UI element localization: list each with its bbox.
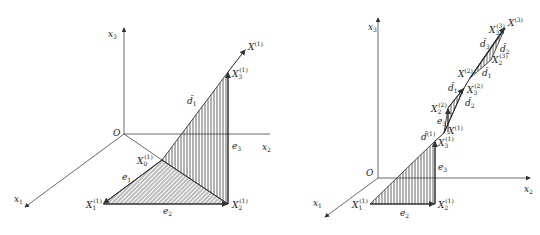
x1-label: x1 xyxy=(14,194,23,205)
origin-label: O xyxy=(113,128,121,138)
point-x-3: X(3) xyxy=(507,16,523,28)
origin-label: O xyxy=(366,168,374,178)
edge-d2-step3-label: d̄2 xyxy=(500,43,510,55)
point-x-1: X(1) xyxy=(447,124,463,136)
left-figure: x3 x2 x1 O X0(1) X1(1) X2(1) X3(1) X(1) … xyxy=(14,28,271,217)
edge-d-1-label: d̄(1) xyxy=(421,130,435,142)
edge-e1-label: e1 xyxy=(122,172,131,183)
x3-label: x3 xyxy=(368,22,377,33)
x1-axis xyxy=(25,134,124,207)
x3-label: x3 xyxy=(108,29,117,40)
point-x3-1: X3(1) xyxy=(437,135,454,149)
edge-e3-label: e3 xyxy=(438,162,447,173)
point-x3-2: X3(2) xyxy=(466,82,483,96)
edge-d1-step2-label: d̄1 xyxy=(448,82,458,94)
point-x2: X2(1) xyxy=(231,197,248,211)
x1-label: x1 xyxy=(313,198,322,209)
point-x2-1: X2(1) xyxy=(437,197,454,211)
point-x1: X1(1) xyxy=(85,197,102,211)
edge-e2-label: e2 xyxy=(163,206,172,217)
point-x3: X3(1) xyxy=(231,66,248,80)
edge-d3-step3-label: d̄3 xyxy=(480,38,490,50)
x2-label: x2 xyxy=(524,184,533,195)
edge-e3-label: e3 xyxy=(232,141,241,152)
edge-d1-step3-label: d̄1 xyxy=(482,67,492,79)
point-x1-1: X1(1) xyxy=(351,197,368,211)
edge-d2-step2-label: d̄2 xyxy=(465,97,475,109)
edge-e2-label: e2 xyxy=(400,208,409,219)
step1-region xyxy=(370,141,435,204)
point-x0: X0(1) xyxy=(136,153,153,167)
x2-label: x2 xyxy=(262,142,271,153)
point-x2-2: X2(2) xyxy=(430,101,447,115)
x1-axis xyxy=(325,178,378,217)
edge-d1-label: d̄1 xyxy=(187,95,197,107)
diagram-canvas: x3 x2 x1 O X0(1) X1(1) X2(1) X3(1) X(1) … xyxy=(0,0,540,235)
right-figure: x3 x2 x1 O X1(1) X2(1) X3(1) X(1) X2(2) … xyxy=(313,16,533,219)
edge-e3-step2-label: e3 xyxy=(437,116,446,127)
point-x-next: X(1) xyxy=(247,40,263,52)
